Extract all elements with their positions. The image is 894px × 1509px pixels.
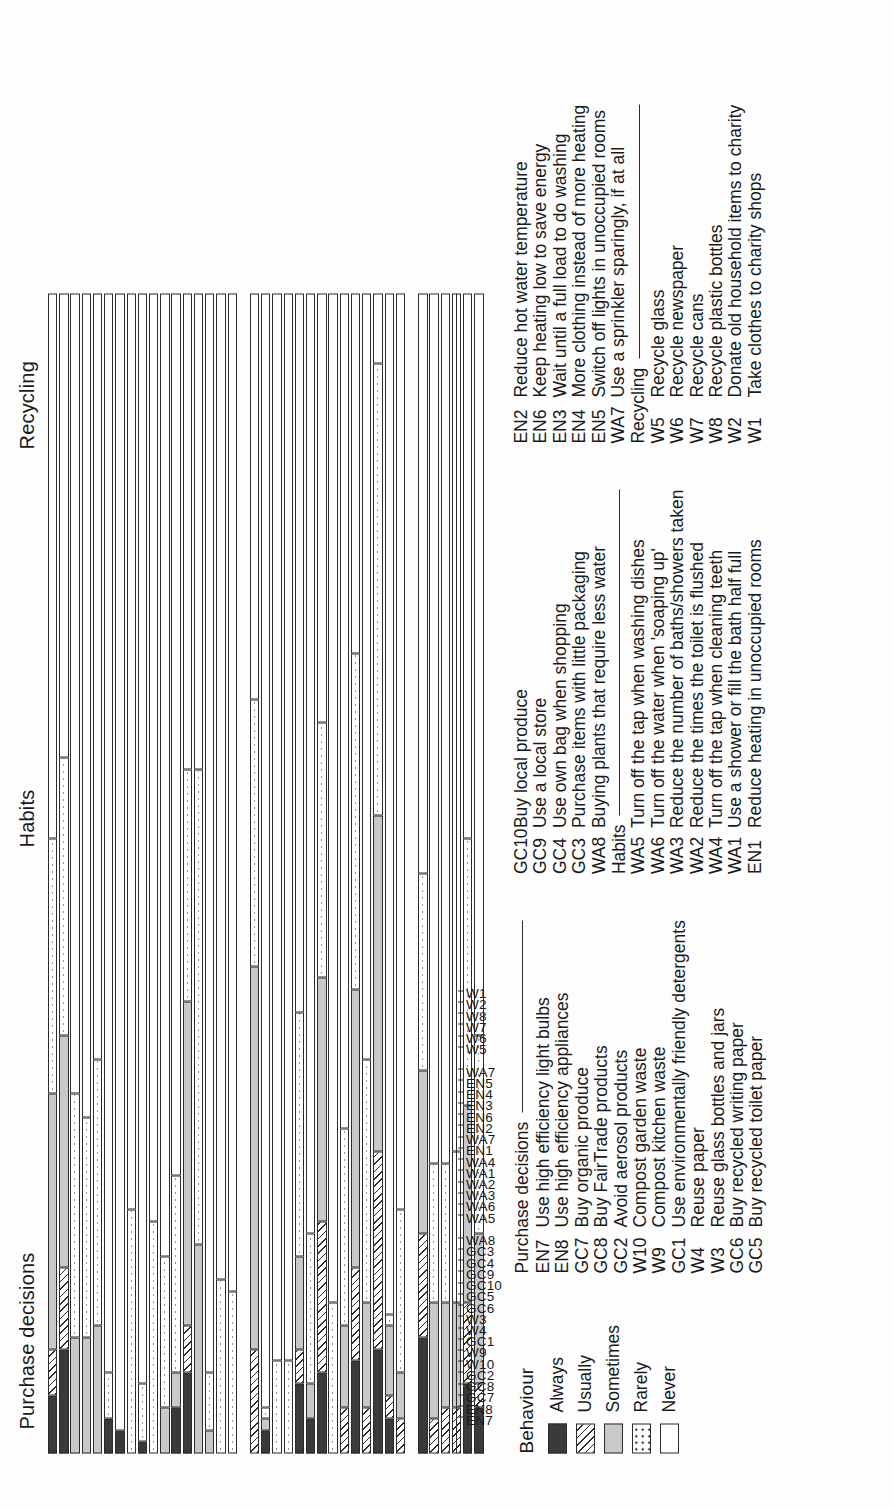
- key-text: Compost kitchen waste: [650, 1046, 669, 1227]
- key-text: Avoid aerosol products: [612, 1049, 631, 1227]
- legend-item-never: Never: [659, 1324, 680, 1453]
- bar-row: [216, 293, 225, 1453]
- key-text: Turn off the tap when cleaning teeth: [707, 549, 726, 827]
- stacked-bar: [183, 293, 192, 1453]
- stacked-bar: [261, 293, 270, 1453]
- key-header: Purchase decisions: [512, 920, 533, 1273]
- key-code: GC10: [512, 828, 531, 874]
- bar-segment-never: [228, 293, 237, 1291]
- stacked-bar: [385, 293, 394, 1453]
- swatch-rarely-icon: [632, 1423, 651, 1453]
- axis-tick: [458, 1248, 464, 1249]
- bar-segment-rarely: [429, 1163, 438, 1302]
- bar-segment-rarely: [138, 1383, 147, 1441]
- bar-segment-sometimes: [183, 1001, 192, 1326]
- stacked-bar: [351, 293, 360, 1453]
- bar-segment-never: [295, 293, 304, 1012]
- bar-segment-usually: [385, 1395, 394, 1418]
- stacked-bar: [441, 293, 450, 1453]
- key-code: WA1: [726, 828, 745, 874]
- bar-segment-usually: [295, 1349, 304, 1384]
- bar-segment-sometimes: [351, 989, 360, 1267]
- bar-row: [362, 293, 371, 1453]
- bar-segment-never: [160, 293, 169, 1256]
- key-subheader-rule: [639, 104, 640, 358]
- bar-segment-rarely: [295, 1012, 304, 1256]
- key-text: Recycle glass: [649, 289, 668, 397]
- bar-segment-rarely: [306, 1233, 315, 1384]
- bar-segment-always: [373, 1349, 382, 1453]
- bar-segment-sometimes: [317, 977, 326, 1221]
- bar-segment-always: [418, 1337, 427, 1453]
- stacked-bar: [115, 293, 124, 1453]
- legend-item-always: Always: [547, 1324, 568, 1453]
- bar-row: [306, 293, 315, 1453]
- swatch-never-icon: [660, 1423, 679, 1453]
- bar-row: [59, 293, 68, 1453]
- stacked-bar: [48, 293, 57, 1453]
- bar-row: [284, 293, 293, 1453]
- key-text: Recycle plastic bottles: [707, 224, 726, 397]
- bar-segment-rarely: [149, 1221, 158, 1453]
- stacked-bar: [160, 293, 169, 1453]
- axis-tick: [458, 1158, 464, 1159]
- key-header-label: Purchase decisions: [512, 1121, 533, 1273]
- key-text: Buy FairTrade products: [592, 1045, 611, 1227]
- key-text: Turn off the water when 'soaping up': [649, 548, 668, 828]
- stacked-bar: [205, 293, 214, 1453]
- legend-label-sometimes: Sometimes: [603, 1324, 624, 1412]
- key-line: GC6Buy recycled writing paper: [728, 920, 747, 1273]
- key-text: Buy recycled writing paper: [728, 1022, 747, 1227]
- key-line: WA2Reduce the times the toilet is flushe…: [688, 489, 707, 874]
- key-line: GC3Purchase items with little packaging: [570, 489, 589, 874]
- bar-segment-never: [93, 293, 102, 1059]
- key-subheader-label: Habits: [610, 824, 629, 874]
- key-code: EN3: [551, 397, 570, 443]
- key-code: WA6: [649, 828, 668, 874]
- item-code-key: Purchase decisionsEN7Use high efficiency…: [512, 104, 767, 1273]
- key-code: GC5: [747, 1227, 766, 1273]
- bar-segment-sometimes: [82, 1337, 91, 1453]
- bar-segment-rarely: [317, 722, 326, 977]
- axis-tick-label: W1: [466, 985, 487, 1000]
- key-code: EN4: [570, 397, 589, 443]
- axis-tick: [458, 1068, 464, 1069]
- key-text: Reduce the times the toilet is flushed: [688, 542, 707, 828]
- bar-segment-sometimes: [295, 1256, 304, 1349]
- key-text: Keep heating low to save energy: [531, 143, 550, 397]
- key-text: Use environmentally friendly detergents: [670, 920, 689, 1227]
- key-line: EN1Reduce heating in unoccupied rooms: [746, 489, 765, 874]
- key-line: GC9Use a local store: [531, 489, 550, 874]
- axis-tick: [458, 1079, 464, 1080]
- key-line: W4Reuse paper: [689, 920, 708, 1273]
- bar-segment-never: [362, 293, 371, 1059]
- bar-segment-sometimes: [340, 1325, 349, 1406]
- bar-segment-rarely: [104, 1372, 113, 1418]
- key-text: Compost garden waste: [631, 1047, 650, 1227]
- stacked-bar: [93, 293, 102, 1453]
- bar-segment-never: [284, 293, 293, 1360]
- key-text: Recycle cans: [688, 293, 707, 397]
- legend-label-rarely: Rarely: [631, 1361, 652, 1412]
- axis-tick: [458, 1023, 464, 1024]
- key-text: Reduce the number of baths/showers taken: [668, 489, 687, 828]
- key-line: W9Compost kitchen waste: [650, 920, 669, 1273]
- key-line: W2Donate old household items to charity: [726, 104, 745, 443]
- bar-segment-sometimes: [306, 1383, 315, 1418]
- bar-segment-never: [59, 293, 68, 757]
- bar-segment-sometimes: [362, 1302, 371, 1406]
- category-tick-labels: EN7EN8GC7GC8GC2W10W9GC1W4W3GC6GC5GC10GC9…: [458, 293, 504, 1453]
- bar-segment-usually: [441, 1407, 450, 1453]
- bar-segment-always: [183, 1372, 192, 1453]
- bar-segment-never: [171, 293, 180, 1175]
- bar-segment-rarely: [205, 1372, 214, 1430]
- bar-segment-sometimes: [70, 1337, 79, 1453]
- key-code: GC4: [551, 828, 570, 874]
- bar-segment-rarely: [261, 1407, 270, 1419]
- bar-row: [317, 293, 326, 1453]
- key-text: Reuse paper: [689, 1127, 708, 1227]
- stacked-bar: [82, 293, 91, 1453]
- key-code: EN2: [512, 397, 531, 443]
- bar-segment-rarely: [194, 769, 203, 1245]
- bar-segment-usually: [362, 1407, 371, 1453]
